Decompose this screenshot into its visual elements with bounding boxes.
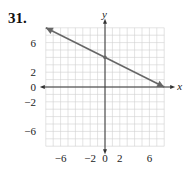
y-intercept-point xyxy=(103,56,107,60)
x-tick-label: −6 xyxy=(55,152,67,164)
x-tick-label: −2 xyxy=(84,152,96,164)
x-tick-label: 2 xyxy=(117,152,123,164)
x-axis-label: x xyxy=(176,80,182,92)
y-tick-label: 2 xyxy=(31,66,37,78)
y-axis-label: y xyxy=(101,8,107,20)
x-axis-left-arrow-icon xyxy=(40,85,45,89)
y-tick-label: −2 xyxy=(24,96,36,108)
x-tick-label: 0 xyxy=(102,152,108,164)
coordinate-plane: xy−6−2026620−2−6 xyxy=(0,0,188,175)
x-axis-arrow-icon xyxy=(170,85,175,89)
x-tick-label: 6 xyxy=(147,152,153,164)
y-tick-label: 6 xyxy=(31,37,37,49)
y-tick-label: −6 xyxy=(24,125,36,137)
y-tick-label: 0 xyxy=(31,81,37,93)
